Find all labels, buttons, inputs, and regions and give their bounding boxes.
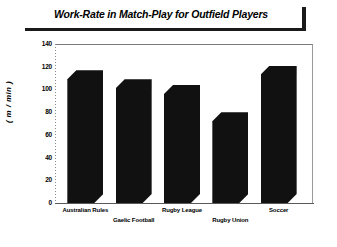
chart-title-container: Work-Rate in Match-Play for Outfield Pla… (22, 4, 308, 30)
y-axis-tick-label: 20 (20, 176, 52, 184)
x-axis-tick-label: Soccer (239, 206, 319, 214)
y-axis-ticks: 020406080100120140 (20, 38, 52, 210)
y-axis-tick-label: 100 (20, 85, 52, 93)
bar (261, 66, 297, 203)
bar (116, 79, 152, 203)
y-axis-tick-label: 60 (20, 131, 52, 139)
bar (212, 112, 248, 203)
title-border-right (302, 7, 306, 28)
x-axis-tick-label: Rugby League (142, 206, 222, 214)
title-border-bottom (25, 28, 306, 31)
chart-title: Work-Rate in Match-Play for Outfield Pla… (22, 4, 300, 24)
y-axis-tick-label: 40 (20, 154, 52, 162)
y-axis-tick-label: 120 (20, 63, 52, 71)
bar (164, 85, 200, 203)
bar (67, 70, 103, 203)
x-axis-tick-label: Australian Rules (45, 206, 125, 214)
y-axis-tick-label: 140 (20, 40, 52, 48)
x-axis-tick-label: Gaelic Football (94, 216, 174, 224)
bar-series (55, 44, 313, 203)
y-axis-tick-label: 80 (20, 108, 52, 116)
x-axis-tick-label: Rugby Union (190, 216, 270, 224)
x-axis-labels: Australian RulesGaelic FootballRugby Lea… (0, 204, 337, 234)
y-axis-label: ( m / min ) (4, 67, 18, 137)
